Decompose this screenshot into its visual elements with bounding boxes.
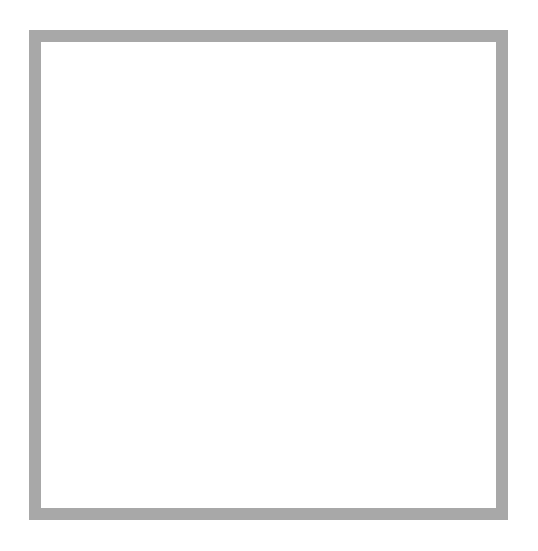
rosette-outline	[52, 59, 488, 495]
rosette-arrow-down	[222, 289, 318, 495]
rosette-arrow-right	[282, 229, 488, 325]
halftone-dot-field	[8, 15, 531, 538]
rosette-arrow-up-left	[116, 123, 281, 288]
artboard: Eight-Pointed Arrow Rosette Halftone dot…	[0, 0, 538, 551]
rosette-arrow-down-right	[259, 266, 424, 431]
rosette-arrow-up-right	[259, 123, 424, 288]
rosette-arrow-up	[222, 59, 318, 265]
arrow-rosette-figure	[0, 0, 538, 551]
rosette-arrow-down-left	[116, 266, 281, 431]
rosette-arrow-left	[52, 229, 258, 325]
